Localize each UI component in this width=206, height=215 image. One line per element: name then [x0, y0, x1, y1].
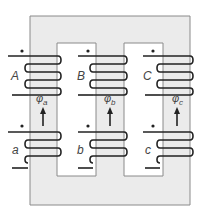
label-B: B [77, 69, 85, 83]
dot-b [86, 124, 89, 127]
flux-sub-a: a [43, 98, 48, 107]
label-c: c [145, 143, 151, 157]
dot-C [151, 49, 154, 52]
dot-A [20, 49, 23, 52]
transformer-diagram: A a B b C c φ a φ b φ c [0, 0, 206, 215]
label-C: C [143, 69, 152, 83]
label-A: A [10, 69, 19, 83]
flux-sub-c: c [179, 98, 183, 107]
flux-sub-b: b [111, 98, 116, 107]
label-b: b [77, 143, 84, 157]
dot-B [86, 49, 89, 52]
dot-a [20, 124, 23, 127]
flux-arrows [40, 107, 180, 126]
label-a: a [12, 143, 19, 157]
dot-c [151, 124, 154, 127]
